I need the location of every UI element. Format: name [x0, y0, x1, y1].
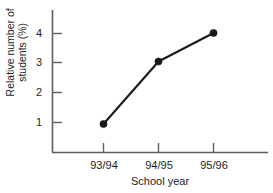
- x-tick-label-94-95: 94/95: [136, 160, 182, 171]
- y-tick-label-2: 2: [28, 87, 42, 98]
- y-tick-label-3: 3: [28, 57, 42, 68]
- y-axis-title-line-2: students (%): [16, 0, 28, 111]
- y-tick-label-4: 4: [28, 28, 42, 39]
- x-tick-label-93-94: 93/94: [81, 160, 127, 171]
- y-axis-title: Relative number of students (%): [4, 0, 29, 111]
- x-axis-title: School year: [52, 176, 268, 187]
- x-tick-label-95-96: 95/96: [191, 160, 237, 171]
- y-tick-label-1: 1: [28, 117, 42, 128]
- series-line: [104, 33, 214, 124]
- data-point-95-96: [210, 29, 217, 36]
- data-point-93-94: [100, 120, 107, 127]
- chart-figure: 4 3 2 1 93/94 94/95 95/96 School year Re…: [0, 0, 273, 193]
- y-axis-title-line-1: Relative number of: [4, 0, 16, 111]
- data-point-94-95: [155, 58, 162, 65]
